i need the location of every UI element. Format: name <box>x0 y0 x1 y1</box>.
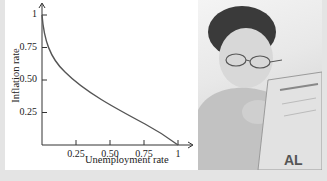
chart: 1 0.75 0.50 0.25 0.25 0.50 0.75 1 Inflat… <box>5 0 205 170</box>
photo-woman-reading-newspaper: AL <box>198 0 322 170</box>
y-tick-1: 1 <box>15 8 37 19</box>
x-axis-label: Unemployment rate <box>85 154 169 165</box>
curve <box>42 15 178 145</box>
y-axis-label: Inflation rate <box>10 36 21 116</box>
svg-text:AL: AL <box>284 152 303 168</box>
chart-plot <box>5 0 205 170</box>
photo-illustration: AL <box>198 0 322 170</box>
